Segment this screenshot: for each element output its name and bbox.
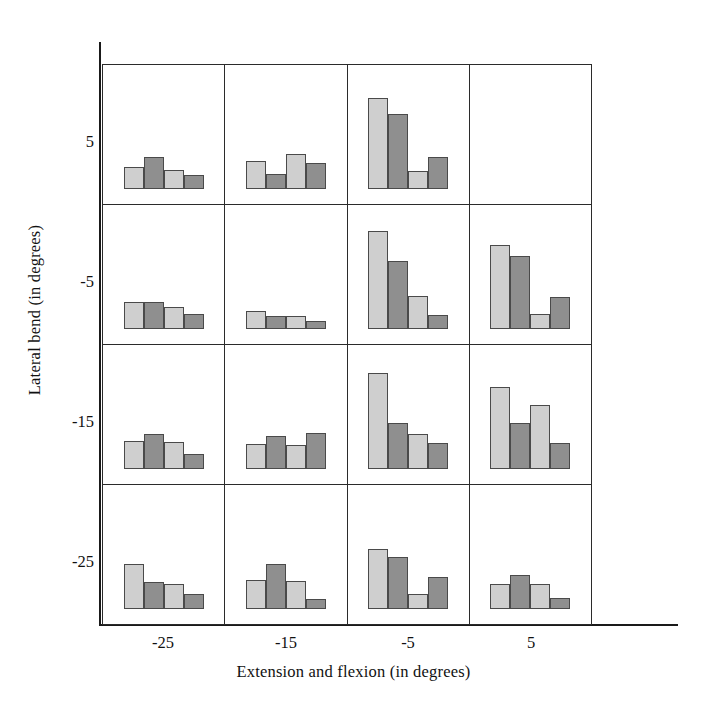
panel-bend-15-flex5 bbox=[470, 345, 592, 485]
bar-1-3 bbox=[306, 163, 326, 189]
bar-11-3 bbox=[550, 443, 570, 469]
bar-10-1 bbox=[388, 423, 408, 469]
bar-7-3 bbox=[550, 297, 570, 329]
bar-7-2 bbox=[530, 314, 550, 329]
panel-grid bbox=[102, 64, 592, 625]
bar-11-2 bbox=[530, 405, 550, 469]
bar-12-3 bbox=[184, 594, 204, 609]
bar-13-0 bbox=[246, 580, 266, 609]
bar-6-0 bbox=[368, 231, 388, 329]
bar-5-0 bbox=[246, 311, 266, 329]
bar-15-2 bbox=[530, 584, 550, 609]
bar-2-2 bbox=[408, 171, 428, 189]
x-axis-tick-labels: -25 -15 -5 5 bbox=[102, 633, 592, 657]
bar-4-2 bbox=[164, 307, 184, 329]
bar-1-2 bbox=[286, 154, 306, 189]
panel-bend-25-flex-25 bbox=[103, 485, 225, 625]
bar-5-1 bbox=[266, 316, 286, 329]
bar-11-0 bbox=[490, 387, 510, 469]
y-tick-label-1: -5 bbox=[46, 274, 94, 290]
bar-5-3 bbox=[306, 321, 326, 329]
x-axis-label: Extension and flexion (in degrees) bbox=[0, 662, 707, 682]
bar-14-1 bbox=[388, 557, 408, 608]
bar-1-0 bbox=[246, 161, 266, 189]
bar-10-0 bbox=[368, 373, 388, 469]
x-tick-label-3: 5 bbox=[491, 633, 571, 653]
bar-14-2 bbox=[408, 594, 428, 609]
bar-6-1 bbox=[388, 261, 408, 329]
y-tick-label-3: -25 bbox=[46, 554, 94, 570]
x-tick-label-1: -15 bbox=[246, 633, 326, 653]
bar-9-3 bbox=[306, 433, 326, 469]
panel-bend-15-flex-15 bbox=[225, 345, 347, 485]
x-tick-label-2: -5 bbox=[368, 633, 448, 653]
bar-11-1 bbox=[510, 423, 530, 469]
panel-bend5-flex-15 bbox=[225, 65, 347, 205]
y-tick-label-0: 5 bbox=[46, 134, 94, 150]
bar-9-1 bbox=[266, 436, 286, 469]
bar-4-0 bbox=[124, 302, 144, 329]
x-tick-label-0: -25 bbox=[123, 633, 203, 653]
bar-13-3 bbox=[306, 599, 326, 608]
y-axis-spine bbox=[99, 42, 101, 625]
bar-1-1 bbox=[266, 174, 286, 189]
panel-bend-15-flex-25 bbox=[103, 345, 225, 485]
bar-10-3 bbox=[428, 443, 448, 469]
panel-bend-25-flex-15 bbox=[225, 485, 347, 625]
bar-10-2 bbox=[408, 434, 428, 469]
bar-6-3 bbox=[428, 315, 448, 329]
bar-8-1 bbox=[144, 434, 164, 469]
bar-9-0 bbox=[246, 444, 266, 469]
panel-bend-5-flex-15 bbox=[225, 205, 347, 345]
trellis-bar-chart-figure: Lateral bend (in degrees) 5 -5 -15 -25 -… bbox=[0, 0, 707, 710]
bar-15-0 bbox=[490, 584, 510, 609]
bar-0-2 bbox=[164, 170, 184, 189]
bar-0-0 bbox=[124, 167, 144, 189]
bar-4-1 bbox=[144, 302, 164, 329]
bar-14-0 bbox=[368, 549, 388, 609]
panel-bend5-flex-25 bbox=[103, 65, 225, 205]
bar-12-0 bbox=[124, 564, 144, 608]
panel-bend-25-flex-5 bbox=[348, 485, 470, 625]
panel-bend-5-flex-25 bbox=[103, 205, 225, 345]
y-axis-tick-labels: 5 -5 -15 -25 bbox=[40, 64, 94, 625]
bar-12-1 bbox=[144, 582, 164, 609]
panel-bend5-flex5 bbox=[470, 65, 592, 205]
bar-7-1 bbox=[510, 256, 530, 328]
panel-bend-5-flex5 bbox=[470, 205, 592, 345]
bar-8-2 bbox=[164, 442, 184, 469]
bar-12-2 bbox=[164, 584, 184, 609]
panel-bend-25-flex5 bbox=[470, 485, 592, 625]
bar-7-0 bbox=[490, 245, 510, 329]
bar-13-2 bbox=[286, 581, 306, 609]
bar-9-2 bbox=[286, 445, 306, 468]
bar-0-3 bbox=[184, 175, 204, 189]
y-tick-label-2: -15 bbox=[46, 414, 94, 430]
bar-6-2 bbox=[408, 296, 428, 329]
bar-14-3 bbox=[428, 577, 448, 609]
bar-0-1 bbox=[144, 157, 164, 189]
panel-bend5-flex-5 bbox=[348, 65, 470, 205]
bar-13-1 bbox=[266, 564, 286, 608]
bar-5-2 bbox=[286, 316, 306, 329]
bar-2-0 bbox=[368, 98, 388, 189]
bar-4-3 bbox=[184, 314, 204, 329]
bar-2-1 bbox=[388, 114, 408, 189]
panel-bend-5-flex-5 bbox=[348, 205, 470, 345]
bar-15-1 bbox=[510, 575, 530, 609]
panel-bend-15-flex-5 bbox=[348, 345, 470, 485]
bar-15-3 bbox=[550, 598, 570, 609]
bar-8-3 bbox=[184, 454, 204, 469]
bar-8-0 bbox=[124, 441, 144, 469]
bar-2-3 bbox=[428, 157, 448, 189]
